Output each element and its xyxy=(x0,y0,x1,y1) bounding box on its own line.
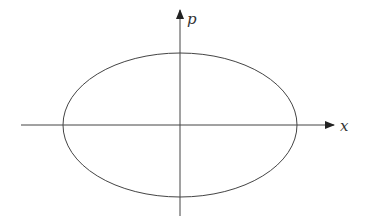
phase-space-diagram: x p xyxy=(0,0,367,221)
p-axis-label: p xyxy=(187,10,197,28)
x-axis-label: x xyxy=(340,117,349,135)
